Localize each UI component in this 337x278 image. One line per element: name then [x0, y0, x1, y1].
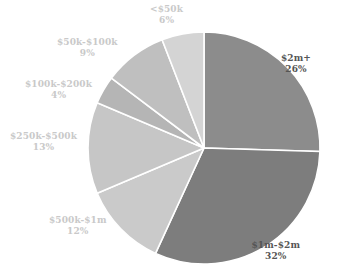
pie-slice-label: <$50k6%	[150, 4, 183, 25]
pie-slice-label-value: 12%	[49, 226, 107, 237]
pie-slice-label: $500k-$1m12%	[49, 215, 107, 236]
pie-slice-label-name: $100k-$200k	[25, 79, 92, 90]
pie-chart-figure: $2m+26%$1m-$2m32%$500k-$1m12%$250k-$500k…	[0, 0, 337, 278]
pie-slice-label-name: $2m+	[281, 53, 311, 64]
pie-slice-label: $1m-$2m32%	[251, 240, 300, 261]
pie-slice-label-name: $500k-$1m	[49, 215, 107, 226]
pie-slice-label: $100k-$200k4%	[25, 79, 92, 100]
pie-slice-label: $50k-$100k9%	[57, 37, 118, 58]
pie-slice-label: $2m+26%	[281, 53, 311, 74]
pie-slice-label-value: 26%	[281, 64, 311, 75]
pie-slice-label-value: 9%	[57, 48, 118, 59]
pie-slice-label-name: $1m-$2m	[251, 240, 300, 251]
pie-slice-label-name: $50k-$100k	[57, 37, 118, 48]
pie-slice-label-value: 4%	[25, 90, 92, 101]
pie-slice-label-value: 32%	[251, 251, 300, 262]
pie-slice[interactable]	[204, 32, 320, 152]
pie-slice-label: $250k-$500k13%	[10, 131, 77, 152]
pie-slice-label-name: <$50k	[150, 4, 183, 15]
pie-slice-label-name: $250k-$500k	[10, 131, 77, 142]
pie-slice-label-value: 6%	[150, 15, 183, 26]
pie-slice-label-value: 13%	[10, 142, 77, 153]
